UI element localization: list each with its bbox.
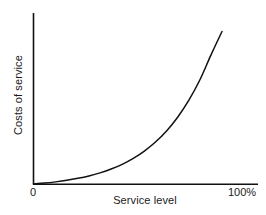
x-axis-tick-origin: 0 — [30, 186, 36, 198]
chart-figure: Costs of service Service level 0 100% — [0, 0, 266, 215]
cost-curve-line — [34, 32, 223, 185]
chart-plot-area — [0, 0, 266, 215]
y-axis-label: Costs of service — [12, 30, 24, 160]
x-axis-tick-max: 100% — [228, 186, 256, 198]
x-axis-label: Service level — [95, 194, 195, 206]
